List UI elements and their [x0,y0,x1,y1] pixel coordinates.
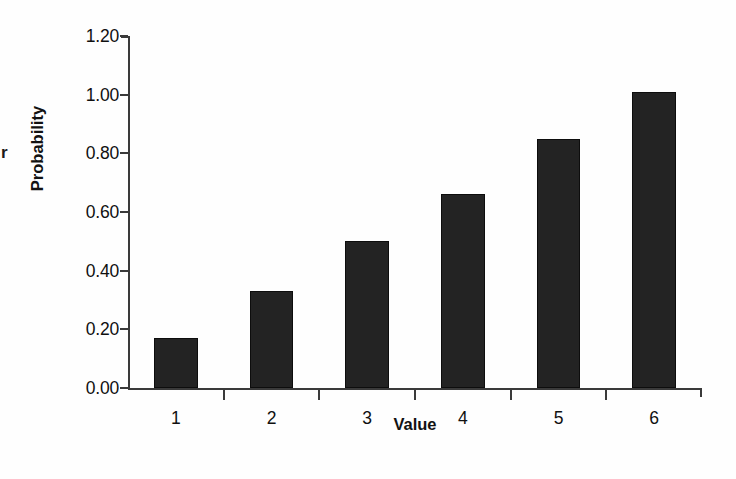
plot-area: 0.000.200.400.600.801.001.20 123456 [128,36,702,389]
bar [537,139,581,388]
y-axis-title: Probability [28,69,47,229]
x-tick-mark [318,390,320,400]
y-tick-label: 0.40 [86,260,119,281]
bar [632,92,676,388]
bar [441,194,485,388]
y-tick-label: 1.00 [86,84,119,105]
y-tick-label: 0.20 [86,319,119,340]
y-tick-mark [120,35,128,37]
y-tick-mark [120,387,128,389]
bar [250,291,294,388]
y-tick-label: 0.60 [86,202,119,223]
y-tick-mark [120,211,128,213]
bar [345,241,389,388]
x-axis-title: Value [0,415,736,434]
y-tick-label: 0.80 [86,143,119,164]
x-tick-mark [414,390,416,400]
x-tick-mark [605,390,607,400]
y-axis-line [128,36,130,390]
y-tick-mark [120,94,128,96]
y-tick-mark [120,328,128,330]
margin-text-artifact: r [1,144,8,161]
x-tick-mark [510,390,512,400]
x-tick-mark [223,390,225,400]
bar-chart-figure: r Probability 0.000.200.400.600.801.001.… [0,0,736,479]
x-axis-end-cap [700,388,702,397]
y-tick-mark [120,152,128,154]
y-tick-mark [120,270,128,272]
bar [154,338,198,388]
y-tick-label: 0.00 [86,378,119,399]
y-tick-label: 1.20 [86,26,119,47]
